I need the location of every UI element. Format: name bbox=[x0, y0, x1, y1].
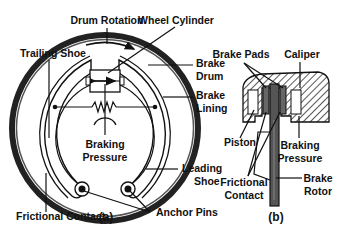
brake-pad-right bbox=[280, 86, 286, 114]
label-frictional-contact: Frictional Contact bbox=[16, 210, 106, 222]
disc-brake-figure: Brake Pads Caliper Piston Braking Pressu… bbox=[212, 48, 332, 224]
label-leading-shoe-2: Shoe bbox=[194, 175, 220, 187]
brake-pad-left bbox=[263, 86, 269, 114]
brake-diagram: Drum Rotation Wheel Cylinder Trailing Sh… bbox=[0, 0, 341, 245]
label-piston: Piston bbox=[224, 136, 256, 148]
label-drum-rotation: Drum Rotation bbox=[71, 14, 144, 26]
caption-a: (a) bbox=[99, 210, 114, 224]
drum-brake-figure: Drum Rotation Wheel Cylinder Trailing Sh… bbox=[12, 14, 228, 224]
label-brake-rotor-1: Brake bbox=[303, 172, 332, 184]
label-leading-shoe-1: Leading bbox=[182, 162, 222, 174]
label-trailing-shoe: Trailing Shoe bbox=[20, 47, 86, 59]
label-frictional-contact-1: Frictional bbox=[220, 176, 267, 188]
label-brake-rotor-2: Rotor bbox=[304, 185, 332, 197]
caliper-bore-right bbox=[291, 90, 301, 114]
caption-b: (b) bbox=[268, 210, 283, 224]
label-anchor-pins: Anchor Pins bbox=[156, 206, 218, 218]
label-brake-pads: Brake Pads bbox=[212, 48, 269, 60]
label-brake-lining-2: Lining bbox=[196, 102, 228, 114]
caliper-bore-left bbox=[248, 90, 258, 114]
label-frictional-contact-2: Contact bbox=[224, 189, 264, 201]
label-brake-lining-1: Brake bbox=[196, 89, 225, 101]
label-braking-pressure-1: Braking bbox=[85, 138, 124, 150]
label-braking-pressure-1: Braking bbox=[280, 139, 319, 151]
label-braking-pressure-2: Pressure bbox=[83, 151, 128, 163]
rotor-hub bbox=[254, 132, 270, 180]
label-caliper: Caliper bbox=[284, 48, 320, 60]
label-brake-drum-2: Drum bbox=[196, 70, 223, 82]
label-wheel-cylinder: Wheel Cylinder bbox=[138, 14, 214, 26]
drum-rotation-arrow bbox=[86, 42, 134, 49]
anchor-pin-left bbox=[75, 182, 89, 196]
label-braking-pressure-2: Pressure bbox=[278, 152, 323, 164]
